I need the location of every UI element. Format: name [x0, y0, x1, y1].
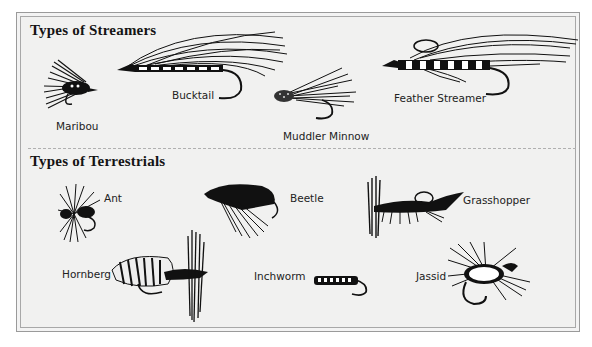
maribou-label: Maribou	[56, 120, 98, 132]
maribou-fly-illustration	[42, 58, 118, 114]
grasshopper-fly-illustration	[364, 176, 468, 240]
beetle-label: Beetle	[290, 192, 324, 204]
ant-fly-illustration	[56, 184, 104, 244]
muddler-minnow-fly-illustration	[272, 66, 360, 122]
grasshopper-label: Grasshopper	[463, 194, 530, 206]
ant-label: Ant	[104, 192, 122, 204]
bucktail-label: Bucktail	[172, 89, 214, 101]
feather-streamer-label: Feather Streamer	[394, 92, 486, 104]
jassid-label: Jassid	[416, 270, 446, 282]
terrestrials-heading: Types of Terrestrials	[30, 153, 165, 170]
hornberg-label: Hornberg	[62, 268, 111, 280]
inchworm-label: Inchworm	[254, 270, 306, 282]
muddler-minnow-label: Muddler Minnow	[283, 130, 369, 142]
section-divider	[28, 148, 576, 149]
jassid-fly-illustration	[446, 242, 536, 308]
feather-streamer-fly-illustration	[380, 28, 580, 100]
inchworm-fly-illustration	[312, 272, 370, 298]
hornberg-fly-illustration	[108, 228, 218, 324]
